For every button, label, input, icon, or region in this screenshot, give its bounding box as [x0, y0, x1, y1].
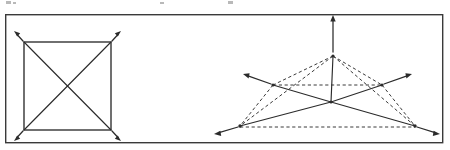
node-apex [331, 54, 334, 57]
node-centre [330, 101, 333, 104]
diagram-canvas [0, 0, 450, 150]
scan-artifacts [6, 1, 233, 4]
node-base-right [413, 124, 416, 127]
node-mid-left [271, 83, 274, 86]
node-mid-right [380, 83, 383, 86]
outer-border [6, 15, 443, 143]
figure-root [0, 0, 450, 150]
node-base-left [238, 124, 241, 127]
